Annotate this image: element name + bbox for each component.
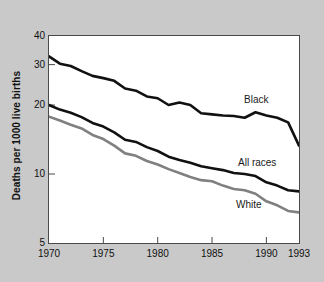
series-lines [49, 36, 299, 243]
y-axis-tick-label: 10 [3, 169, 45, 179]
y-axis-tick-label: 20 [3, 100, 45, 110]
infant-mortality-chart: Deaths per 1000 live births 403020105 19… [0, 0, 324, 282]
series-label-white: White [236, 199, 262, 210]
series-line-all-races [49, 105, 299, 191]
y-axis-tick-label: 5 [3, 238, 45, 248]
x-axis-tick-label: 1985 [192, 248, 232, 259]
x-axis-tick-label: 1993 [279, 248, 319, 259]
x-axis-tick-label: 1975 [83, 248, 123, 259]
x-axis-tick-label: 1970 [29, 248, 69, 259]
x-axis-tick-label: 1980 [138, 248, 178, 259]
plot-area [48, 35, 300, 244]
y-axis-tick-label: 40 [3, 31, 45, 41]
series-label-all-races: All races [238, 157, 276, 168]
series-label-black: Black [244, 94, 268, 105]
y-axis-tick-label: 30 [3, 60, 45, 70]
y-axis-tick-labels: 403020105 [0, 0, 45, 282]
